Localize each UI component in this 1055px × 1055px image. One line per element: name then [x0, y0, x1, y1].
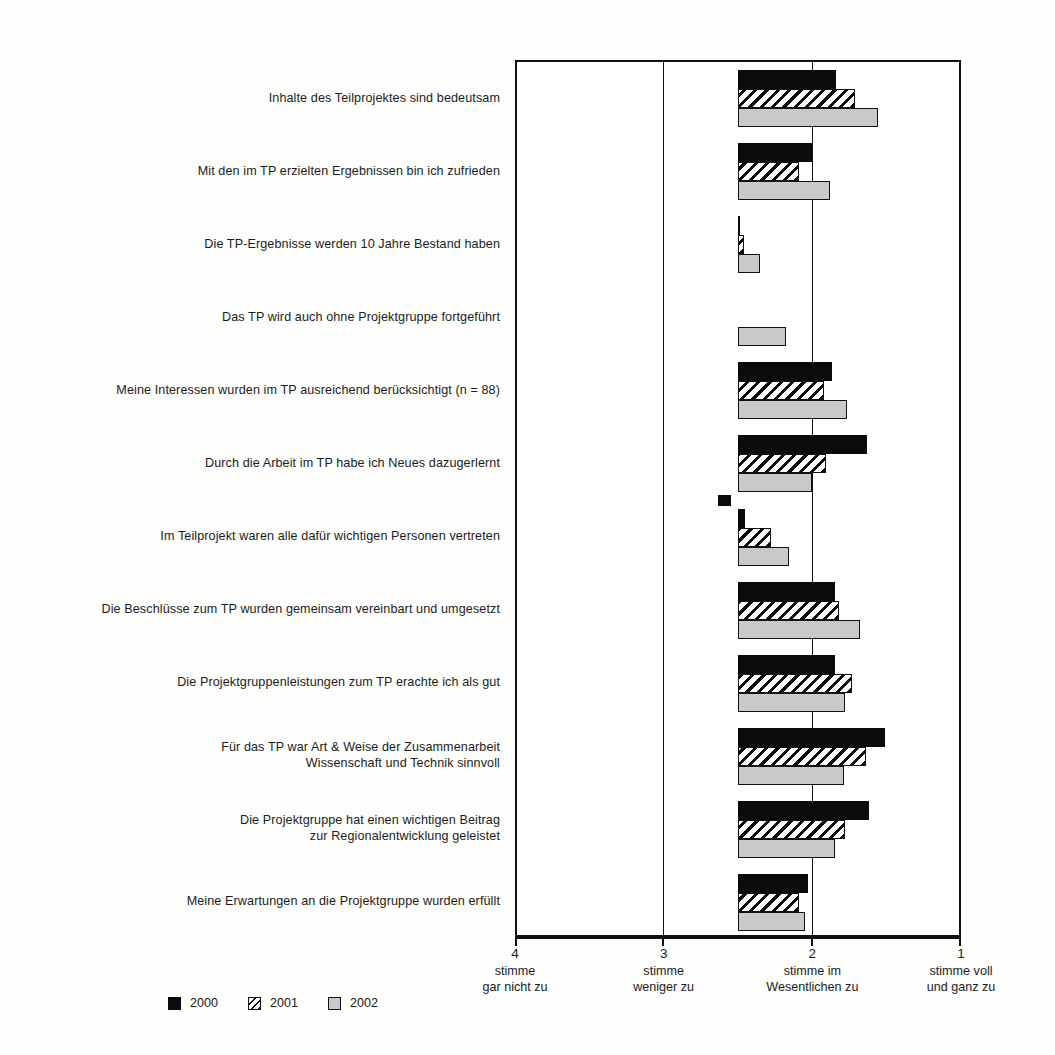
category-label-line: Mit den im TP erzielten Ergebnissen bin … [0, 163, 500, 179]
x-tick-caption-line1: stimme [495, 964, 536, 978]
bar-2002 [738, 108, 878, 127]
category-label: Meine Interessen wurden im TP ausreichen… [0, 382, 500, 398]
category-label: Die TP-Ergebnisse werden 10 Jahre Bestan… [0, 236, 500, 252]
bar-2000 [738, 801, 869, 820]
legend-label-2000: 2000 [190, 996, 218, 1010]
bar-chart: Inhalte des Teilprojektes sind bedeutsam… [0, 0, 1055, 1055]
bar-2001 [738, 381, 824, 400]
x-tick-value: 1 [876, 946, 1046, 963]
legend-swatch-2000 [168, 997, 181, 1010]
category-label-line: zur Regionalentwicklung geleistet [0, 828, 500, 844]
bar-2001 [738, 674, 852, 693]
bar-2002 [738, 839, 835, 858]
category-label-line: Durch die Arbeit im TP habe ich Neues da… [0, 455, 500, 471]
bar-2002 [738, 766, 844, 785]
legend-item-2001: 2001 [248, 996, 298, 1010]
bar-2001 [738, 89, 855, 108]
bar-2000 [738, 728, 885, 747]
bar-2000 [738, 874, 808, 893]
category-label: Für das TP war Art & Weise der Zusammena… [0, 739, 500, 771]
category-label: Die Projektgruppe hat einen wichtigen Be… [0, 812, 500, 844]
category-label: Inhalte des Teilprojektes sind bedeutsam [0, 90, 500, 106]
bar-2001 [738, 601, 839, 620]
x-tick-value: 3 [579, 946, 749, 963]
bar-2002 [738, 912, 805, 931]
x-tick-caption-line1: stimme voll [930, 964, 993, 978]
bar-2002 [738, 254, 760, 273]
category-label-line: Im Teilprojekt waren alle dafür wichtige… [0, 528, 500, 544]
legend-swatch-2001 [248, 997, 261, 1010]
bar-2000 [738, 435, 867, 454]
legend-label-2002: 2002 [350, 996, 378, 1010]
bar-2000 [738, 143, 812, 162]
x-tick-value: 2 [727, 946, 897, 963]
bars-layer [515, 60, 961, 937]
bar-2001 [738, 162, 799, 181]
category-label-line: Die Projektgruppe hat einen wichtigen Be… [0, 812, 500, 828]
bar-2002 [738, 181, 830, 200]
category-label-line: Wissenschaft und Technik sinnvoll [0, 755, 500, 771]
bar-2002 [738, 473, 812, 492]
legend-item-2000: 2000 [168, 996, 218, 1010]
category-label-line: Für das TP war Art & Weise der Zusammena… [0, 739, 500, 755]
bar-2000 [738, 216, 740, 235]
bar-2001 [738, 454, 826, 473]
category-label: Die Beschlüsse zum TP wurden gemeinsam v… [0, 601, 500, 617]
x-tick-label-2: 2stimme imWesentlichen zu [727, 946, 897, 996]
category-label-line: Meine Erwartungen an die Projektgruppe w… [0, 893, 500, 909]
category-label-line: Die TP-Ergebnisse werden 10 Jahre Bestan… [0, 236, 500, 252]
x-tick-caption-line1: stimme im [784, 964, 841, 978]
bar-2001 [738, 820, 845, 839]
category-label: Im Teilprojekt waren alle dafür wichtige… [0, 528, 500, 544]
category-label-line: Meine Interessen wurden im TP ausreichen… [0, 382, 500, 398]
x-tick-caption-line2: Wesentlichen zu [727, 979, 897, 996]
axis-tick-3 [662, 937, 664, 946]
category-label: Mit den im TP erzielten Ergebnissen bin … [0, 163, 500, 179]
axis-tick-1 [959, 937, 961, 946]
bar-2002 [738, 327, 786, 346]
legend-swatch-2002 [328, 997, 341, 1010]
bar-2000 [738, 362, 832, 381]
x-tick-label-1: 1stimme vollund ganz zu [876, 946, 1046, 996]
category-label-line: Die Projektgruppenleistungen zum TP erac… [0, 674, 500, 690]
x-tick-label-3: 3stimmeweniger zu [579, 946, 749, 996]
category-labels: Inhalte des Teilprojektes sind bedeutsam… [0, 60, 500, 937]
x-axis-tick-labels: 4stimmegar nicht zu3stimmeweniger zu2sti… [0, 946, 1055, 1016]
x-tick-value: 4 [430, 946, 600, 963]
bar-2000 [738, 509, 745, 528]
x-tick-caption-line1: stimme [643, 964, 684, 978]
category-label: Meine Erwartungen an die Projektgruppe w… [0, 893, 500, 909]
bar-2001 [738, 747, 866, 766]
x-tick-caption-line2: gar nicht zu [430, 979, 600, 996]
legend: 2000 2001 2002 [168, 996, 378, 1010]
bar-2001 [738, 528, 771, 547]
bar-2002 [738, 693, 845, 712]
x-tick-caption-line2: und ganz zu [876, 979, 1046, 996]
category-label-line: Inhalte des Teilprojektes sind bedeutsam [0, 90, 500, 106]
bar-2000 [738, 582, 835, 601]
outlier-marker-2000 [718, 495, 731, 506]
legend-label-2001: 2001 [270, 996, 298, 1010]
bar-2001 [738, 235, 744, 254]
category-label: Durch die Arbeit im TP habe ich Neues da… [0, 455, 500, 471]
bar-2002 [738, 547, 789, 566]
bar-2001 [738, 893, 799, 912]
bar-2000 [738, 655, 835, 674]
axis-tick-4 [515, 937, 517, 946]
category-label-line: Die Beschlüsse zum TP wurden gemeinsam v… [0, 601, 500, 617]
legend-item-2002: 2002 [328, 996, 378, 1010]
category-label: Die Projektgruppenleistungen zum TP erac… [0, 674, 500, 690]
x-tick-caption-line2: weniger zu [579, 979, 749, 996]
category-label: Das TP wird auch ohne Projektgruppe fort… [0, 309, 500, 325]
x-tick-label-4: 4stimmegar nicht zu [430, 946, 600, 996]
category-label-line: Das TP wird auch ohne Projektgruppe fort… [0, 309, 500, 325]
x-axis-line [515, 937, 961, 939]
bar-2002 [738, 620, 860, 639]
bar-2002 [738, 400, 847, 419]
bar-2000 [738, 70, 836, 89]
axis-tick-2 [811, 937, 813, 946]
